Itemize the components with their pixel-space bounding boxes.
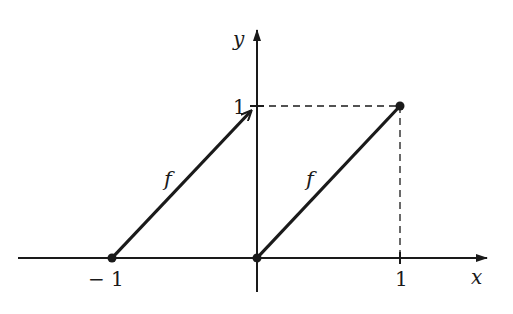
right-segment: [257, 106, 400, 258]
y-tick-label-1: 1: [233, 95, 246, 119]
left-segment-label: f: [162, 167, 175, 191]
function-diagram: y x 1 − 1 1 f f: [0, 0, 513, 314]
right-segment-end-dot: [396, 102, 405, 111]
x-tick-label-neg1: − 1: [88, 267, 124, 291]
x-tick-label-1: 1: [395, 267, 408, 291]
y-axis-label: y: [232, 27, 245, 51]
origin-dot: [253, 254, 262, 263]
left-segment-start-dot: [108, 254, 117, 263]
right-segment-label: f: [304, 167, 317, 191]
x-axis-label: x: [471, 265, 482, 289]
left-segment: [112, 111, 251, 258]
